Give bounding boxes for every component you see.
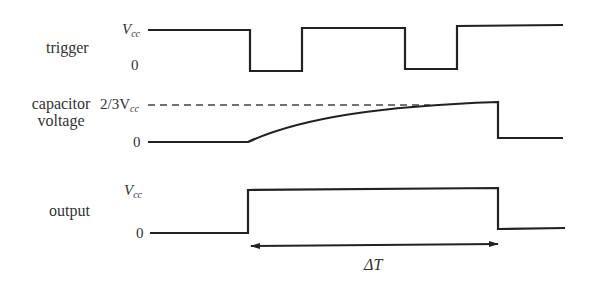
threshold-text: 2/3V	[100, 96, 130, 112]
vcc-subscript: cc	[133, 189, 142, 200]
trigger-label: trigger	[46, 40, 89, 56]
threshold-label: 2/3Vcc	[100, 97, 139, 114]
timing-diagram	[0, 0, 596, 284]
interval-label: ΔT	[364, 257, 382, 273]
output-waveform	[150, 188, 565, 233]
trigger-zero-label: 0	[131, 58, 139, 73]
capacitor-voltage-waveform	[148, 102, 563, 142]
trigger-vcc-label: Vcc	[122, 22, 140, 39]
interval-arrow	[251, 244, 498, 246]
vcc-text: V	[124, 182, 133, 198]
output-zero-label: 0	[136, 226, 144, 241]
capacitor-label-line1: capacitor	[26, 96, 96, 112]
capacitor-label-line2: voltage	[26, 113, 96, 129]
output-label: output	[49, 203, 90, 219]
threshold-subscript: cc	[130, 103, 139, 114]
capacitor-zero-label: 0	[133, 135, 141, 150]
vcc-subscript: cc	[131, 28, 140, 39]
vcc-text: V	[122, 21, 131, 37]
output-vcc-label: Vcc	[124, 183, 142, 200]
trigger-waveform	[148, 25, 563, 71]
